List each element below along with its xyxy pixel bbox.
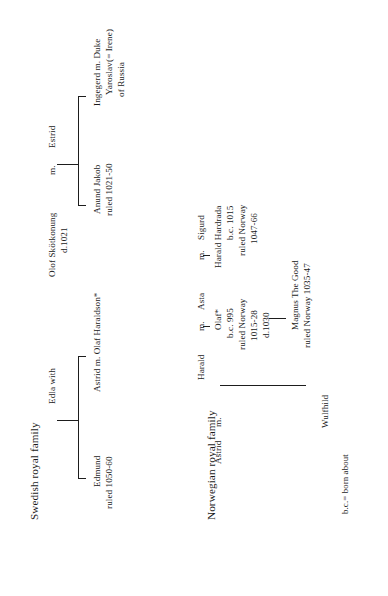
norwegian-hardrada-born: b.c. 1015 <box>225 206 236 241</box>
norwegian-magnus-name: Magnus The Good <box>290 260 301 330</box>
swedish-estrid-connector <box>57 164 79 165</box>
swedish-edla-connector <box>57 420 79 421</box>
norwegian-astrid-label: Astrid <box>213 441 224 464</box>
norwegian-olaf-rule-line1: ruled Norway <box>237 299 248 350</box>
swedish-ingegerd-alias: (= Irene) <box>104 29 115 62</box>
norwegian-asta-label: Asta <box>196 293 207 310</box>
swedish-estrid-sibling-bar <box>78 96 79 206</box>
swedish-edmund-name: Edmund <box>92 456 103 487</box>
swedish-anund-drop <box>78 205 86 206</box>
norwegian-sigurd-label: Sigurd <box>196 215 207 240</box>
swedish-edmund-rule: ruled 1050-60 <box>104 456 115 509</box>
swedish-anund-name: Anund Jakob <box>92 165 103 214</box>
swedish-ingegerd-line3: of Russia <box>116 62 127 97</box>
swedish-olof-marriage-label: m. <box>47 165 58 175</box>
swedish-edla-sibling-bar <box>78 356 79 479</box>
swedish-ingegerd-marriage: Ingegerd m. Duke <box>92 38 103 106</box>
swedish-ingegerd-line2: Yaroslav <box>104 62 115 95</box>
swedish-edmund-drop <box>78 478 86 479</box>
norwegian-hardrada-rule-line1: ruled Norway <box>237 205 248 256</box>
swedish-section-title: Swedish royal family <box>28 422 42 520</box>
genealogy-chart-page: Swedish royal family Edla with Olof Sköt… <box>0 0 388 596</box>
norwegian-hardrada-name: Harald Hardrada <box>213 206 224 268</box>
norwegian-olaf-rule-line2: 1015-28 <box>249 310 260 341</box>
norwegian-magnus-rule: ruled Norway 1035-47 <box>302 263 313 348</box>
swedish-anund-rule: ruled 1021-50 <box>104 163 115 216</box>
norwegian-hardrada-descent-dash <box>203 255 210 256</box>
norwegian-olaf-name: Olaf* <box>213 309 224 330</box>
norwegian-olaf-death: d.1030 <box>261 312 272 338</box>
swedish-olof-name: Olof Skötkonung <box>47 213 58 277</box>
swedish-ingegerd-drop <box>78 96 86 97</box>
legend-born-about: b.c.= born about <box>340 454 351 514</box>
swedish-edla-label: Edla with <box>47 368 58 404</box>
swedish-astrid-marriage: Astrid m. Olaf Haraldson* <box>92 293 103 392</box>
swedish-olof-death: d.1021 <box>59 227 70 253</box>
norwegian-harald-label: Harald <box>196 355 207 380</box>
norwegian-astrid-marriage-label: m. <box>213 417 224 427</box>
norwegian-olaf-born: b.c. 995 <box>225 308 236 338</box>
norwegian-hardrada-rule-line2: 1047-66 <box>249 213 260 244</box>
norwegian-wulfhild-connector <box>220 385 306 386</box>
swedish-estrid-label: Estrid <box>47 126 58 148</box>
norwegian-olaf-descent-dash <box>203 326 210 327</box>
norwegian-magnus-connector <box>269 318 286 319</box>
norwegian-wulfhild-label: Wulfhild <box>320 395 331 428</box>
swedish-astrid-drop <box>78 356 86 357</box>
